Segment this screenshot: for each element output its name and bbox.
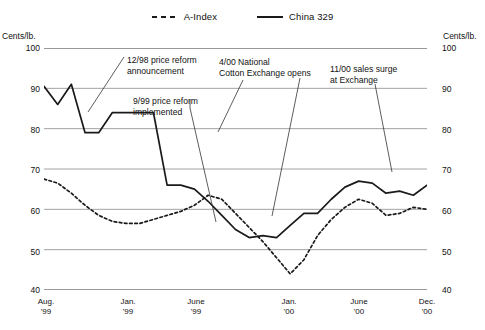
y-tick-left-90: 90: [18, 85, 40, 94]
chart-legend: A-Index China 329: [0, 8, 485, 26]
y-tick-left-60: 60: [18, 207, 40, 216]
y-tick-left-50: 50: [18, 248, 40, 257]
y-tick-left-40: 40: [18, 286, 40, 295]
y-tick-right-100: 100: [442, 44, 466, 53]
legend-swatch-dashed-icon: [152, 16, 178, 18]
x-tick-june-99: June '99: [173, 297, 219, 317]
y-tick-left-80: 80: [18, 126, 40, 135]
y-tick-right-40: 40: [442, 286, 466, 295]
y-tick-left-70: 70: [18, 166, 40, 175]
y-axis-unit-left: Cents/lb.: [2, 31, 36, 41]
x-tick-jan-99: Jan. '99: [105, 297, 151, 317]
x-tick-jan-00: Jan. '00: [266, 297, 312, 317]
x-tick-june-00: June '00: [336, 297, 382, 317]
legend-swatch-solid-icon: [257, 16, 283, 18]
x-tick-dec-00: Dec. '00: [404, 297, 450, 317]
legend-label-a-index: A-Index: [184, 12, 217, 22]
chart-figure: A-Index China 329 Cents/lb. Cents/lb. 10…: [0, 0, 485, 330]
legend-item-a-index: A-Index: [152, 12, 217, 22]
y-tick-right-80: 80: [442, 126, 466, 135]
y-tick-right-60: 60: [442, 207, 466, 216]
y-tick-left-100: 100: [18, 44, 40, 53]
y-axis-unit-right: Cents/lb.: [443, 31, 477, 41]
y-tick-right-70: 70: [442, 166, 466, 175]
x-tick-aug-99: Aug. '99: [23, 297, 69, 317]
legend-label-china-329: China 329: [289, 12, 333, 22]
legend-item-china-329: China 329: [257, 12, 333, 22]
y-tick-right-50: 50: [442, 248, 466, 257]
chart-canvas: [44, 48, 427, 290]
plot-area: [44, 48, 427, 290]
y-tick-right-90: 90: [442, 85, 466, 94]
